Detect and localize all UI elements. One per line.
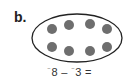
dot — [102, 24, 112, 34]
dot — [102, 42, 112, 52]
dot — [85, 19, 95, 29]
dot — [85, 46, 95, 56]
dot — [64, 20, 74, 30]
equals-sign: = — [82, 66, 92, 78]
set-outline — [32, 14, 122, 62]
dot — [64, 46, 74, 56]
dot — [47, 24, 57, 34]
dot — [47, 42, 57, 52]
minus-operator: – — [58, 66, 71, 78]
dots-group — [47, 19, 112, 56]
subtraction-expression: ⁻8 – ⁻3 = — [0, 66, 139, 78]
